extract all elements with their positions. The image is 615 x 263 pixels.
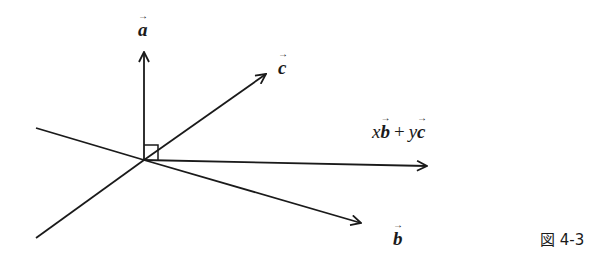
label-vector-b: b [393,229,403,248]
plane-line-1 [36,128,144,160]
vector-diagram: a c xb+yc b 図 4-3 [0,0,615,263]
vector-xb-yc-arrow [144,160,427,166]
diagram-canvas [0,0,615,263]
label-xb-plus-yc: xb+yc [372,122,426,141]
vector-c-arrow [144,74,266,160]
vector-b-arrow [144,160,361,223]
plane-line-2 [36,160,144,238]
figure-caption: 図 4-3 [540,228,584,249]
label-vector-c: c [278,58,286,77]
label-vector-a: a [138,20,148,39]
